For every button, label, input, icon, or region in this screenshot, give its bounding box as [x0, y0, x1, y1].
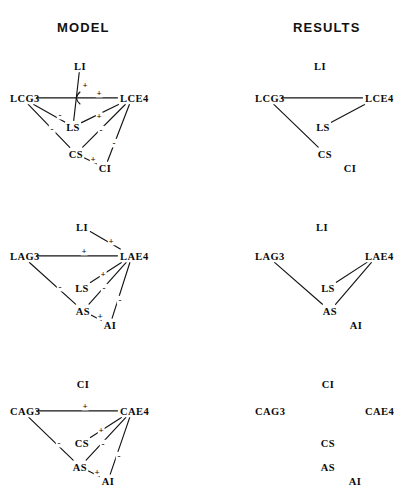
- edge-sign-CAG3-AS: -: [58, 438, 61, 448]
- node-label-CS: CS: [75, 438, 89, 449]
- edge-sign-LAE4-LS: +: [100, 269, 105, 279]
- edge-sign-LCE4-CS: -: [100, 125, 103, 135]
- node-label-LI: LI: [76, 222, 88, 233]
- edge-LCE4-CI: [108, 104, 130, 161]
- node-label-AS: AS: [73, 462, 87, 473]
- edge-sign-AS-AI: +: [97, 311, 102, 321]
- node-label-LAG3: LAG3: [255, 251, 285, 262]
- edge-sign-LAE4-AS: -: [103, 283, 106, 293]
- node-label-CS: CS: [318, 149, 332, 160]
- edge-sign-CAE4-CS: +: [98, 425, 103, 435]
- node-label-CI: CI: [77, 379, 90, 390]
- panel-results-row1: LILCG3LCE4LSCSCI: [253, 61, 394, 174]
- edge-sign-CAG3-CAE4: +: [82, 401, 87, 411]
- node-label-AS: AS: [321, 462, 335, 473]
- edge-LI-LAE4: [90, 232, 120, 249]
- edge-sign-CAE4-AI: -: [118, 451, 121, 461]
- node-label-LAE4: LAE4: [120, 251, 149, 262]
- node-label-LS: LS: [321, 283, 335, 294]
- node-label-AI: AI: [350, 320, 363, 331]
- node-label-LI: LI: [314, 61, 326, 72]
- edge-sign-LI-LAE4: +: [108, 236, 113, 246]
- edge-sign-LI-LS: +: [82, 80, 87, 90]
- node-label-AS: AS: [323, 306, 337, 317]
- node-label-AI: AI: [349, 476, 362, 487]
- edge-sign-LCE4-LS: +: [96, 111, 101, 121]
- node-label-LS: LS: [316, 122, 330, 133]
- panel-results-row2: LILAG3LAE4LSASAI: [253, 222, 394, 331]
- node-label-CS: CS: [69, 149, 83, 160]
- edge-sign-AS-AI: +: [94, 467, 99, 477]
- edge-sign-LAE4-AI: -: [119, 295, 122, 305]
- edge-LAG3-AS: [275, 262, 323, 304]
- panel-results-row3: CICAG3CAE4CSASAI: [253, 379, 394, 487]
- node-label-LS: LS: [75, 283, 89, 294]
- node-label-LCG3: LCG3: [255, 93, 285, 104]
- figure-root: MODEL RESULTS LILCG3LCE4LSCSCI++--+--+LI…: [0, 0, 411, 504]
- edge-sign-LAG3-AS: -: [59, 282, 62, 292]
- node-label-LCE4: LCE4: [365, 93, 394, 104]
- edge-sign-LAG3-LAE4: +: [81, 246, 86, 256]
- edge-CAG3-AS: [29, 417, 73, 460]
- node-label-CAG3: CAG3: [10, 406, 40, 417]
- edge-sign-LCG3-CS: -: [51, 124, 54, 134]
- node-label-AI: AI: [104, 320, 117, 331]
- node-label-CI: CI: [344, 163, 357, 174]
- panel-model-row2: LILAG3LAE4LSASAI++-+--+: [8, 222, 149, 331]
- edge-sign-CS-CI: +: [90, 154, 95, 164]
- node-label-LCE4: LCE4: [120, 93, 149, 104]
- edge-CAE4-AI: [110, 417, 129, 474]
- node-label-LI: LI: [316, 222, 328, 233]
- edge-sign-LCG3-LCE4: +: [96, 88, 101, 98]
- edge-sign-CAE4-AS: -: [102, 439, 105, 449]
- node-label-LAG3: LAG3: [10, 251, 40, 262]
- node-label-AI: AI: [102, 476, 115, 487]
- node-label-LAE4: LAE4: [365, 251, 394, 262]
- node-label-CI: CI: [99, 163, 112, 174]
- panel-model-row3: CICAG3CAE4CSASAI+-+--+: [8, 379, 149, 487]
- edge-sign-LCG3-LS: -: [59, 110, 62, 120]
- panel-model-row1: LILCG3LCE4LSCSCI++--+--+: [8, 61, 149, 174]
- edge-LCE4-LS: [331, 104, 364, 122]
- node-label-CAE4: CAE4: [120, 406, 150, 417]
- node-label-LCG3: LCG3: [10, 93, 40, 104]
- node-label-CI: CI: [322, 379, 335, 390]
- edge-sign-LCE4-CI: -: [113, 138, 116, 148]
- edge-LAE4-AI: [112, 262, 130, 318]
- edge-LCG3-CS: [274, 104, 318, 147]
- edge-LAE4-AS: [336, 262, 372, 304]
- signed-graph-panels: LILCG3LCE4LSCSCI++--+--+LILCG3LCE4LSCSCI…: [0, 0, 411, 504]
- node-label-CAG3: CAG3: [255, 406, 285, 417]
- node-label-CS: CS: [321, 438, 335, 449]
- edge-LAG3-AS: [29, 263, 75, 305]
- node-label-LI: LI: [74, 61, 86, 72]
- node-label-CAE4: CAE4: [365, 406, 395, 417]
- node-label-AS: AS: [76, 306, 90, 317]
- node-label-LS: LS: [66, 122, 80, 133]
